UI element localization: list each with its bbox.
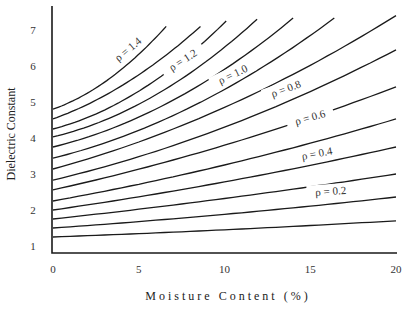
y-tick-label: 7 <box>30 24 36 36</box>
axes-frame <box>52 6 397 253</box>
svg-text:ρ = 0.2: ρ = 0.2 <box>315 184 347 198</box>
curve-1-0 <box>53 18 293 147</box>
y-tick-label: 2 <box>30 204 36 216</box>
x-tick-label: 0 <box>50 263 56 275</box>
curve-label: ρ = 1.0 <box>208 57 257 91</box>
curve-1-3 <box>53 26 201 119</box>
svg-text:ρ = 1.0: ρ = 1.0 <box>216 62 250 87</box>
curve-0-8 <box>53 16 396 169</box>
x-tick-label: 5 <box>136 263 142 275</box>
svg-text:ρ = 1.4: ρ = 1.4 <box>112 34 144 63</box>
x-tick-label: 15 <box>305 263 317 275</box>
curve-label: ρ = 0.4 <box>292 142 342 165</box>
curve-label-group: ρ = 1.4ρ = 1.2ρ = 1.0ρ = 0.8ρ = 0.6ρ = 0… <box>105 28 355 199</box>
y-tick-label: 5 <box>30 96 36 108</box>
y-axis-title: Dielectric Constant <box>4 87 18 181</box>
svg-text:ρ = 0.8: ρ = 0.8 <box>269 77 303 99</box>
dielectric-moisture-chart: ρ = 1.4ρ = 1.2ρ = 1.0ρ = 0.8ρ = 0.6ρ = 0… <box>0 0 408 313</box>
x-tick-label: 20 <box>391 263 403 275</box>
curve-label: ρ = 0.2 <box>306 182 355 199</box>
curve-0-1 <box>53 221 396 237</box>
curve-label: ρ = 0.6 <box>285 104 335 131</box>
y-tick-label: 3 <box>30 168 36 180</box>
x-axis-title: Moisture Content (%) <box>145 289 310 303</box>
x-tick-labels: 05101520 <box>50 263 402 275</box>
y-tick-label: 4 <box>30 132 36 144</box>
curve-0-6 <box>53 87 396 190</box>
curve-group <box>53 16 396 237</box>
y-tick-label: 1 <box>30 240 36 252</box>
y-tick-label: 6 <box>30 60 36 72</box>
x-tick-label: 10 <box>219 263 231 275</box>
curve-label: ρ = 1.2 <box>159 41 207 79</box>
y-tick-labels: 1234567 <box>30 24 36 252</box>
